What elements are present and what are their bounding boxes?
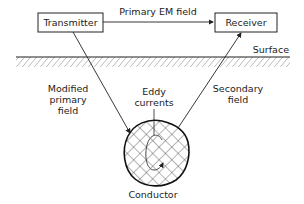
secondary-field-arrow xyxy=(178,33,241,128)
primary-em-field-label: Primary EM field xyxy=(119,6,196,17)
receiver-node: Receiver xyxy=(215,13,277,32)
receiver-label: Receiver xyxy=(225,17,266,28)
secondary-label-2: field xyxy=(228,94,249,105)
surface-label: Surface xyxy=(253,44,289,55)
ground-surface xyxy=(16,57,290,67)
secondary-label-1: Secondary xyxy=(213,83,264,94)
em-induction-diagram: Surface Transmitter Receiver Primary EM … xyxy=(0,0,304,204)
transmitter-label: Transmitter xyxy=(42,17,97,28)
conductor-body xyxy=(124,120,189,186)
modified-label-3: field xyxy=(58,105,79,116)
modified-label-1: Modified xyxy=(48,83,89,94)
conductor-label: Conductor xyxy=(128,189,177,200)
modified-label-2: primary xyxy=(49,94,87,105)
eddy-label-1: Eddy xyxy=(142,86,166,97)
eddy-label-2: currents xyxy=(134,97,173,108)
transmitter-node: Transmitter xyxy=(38,13,103,32)
